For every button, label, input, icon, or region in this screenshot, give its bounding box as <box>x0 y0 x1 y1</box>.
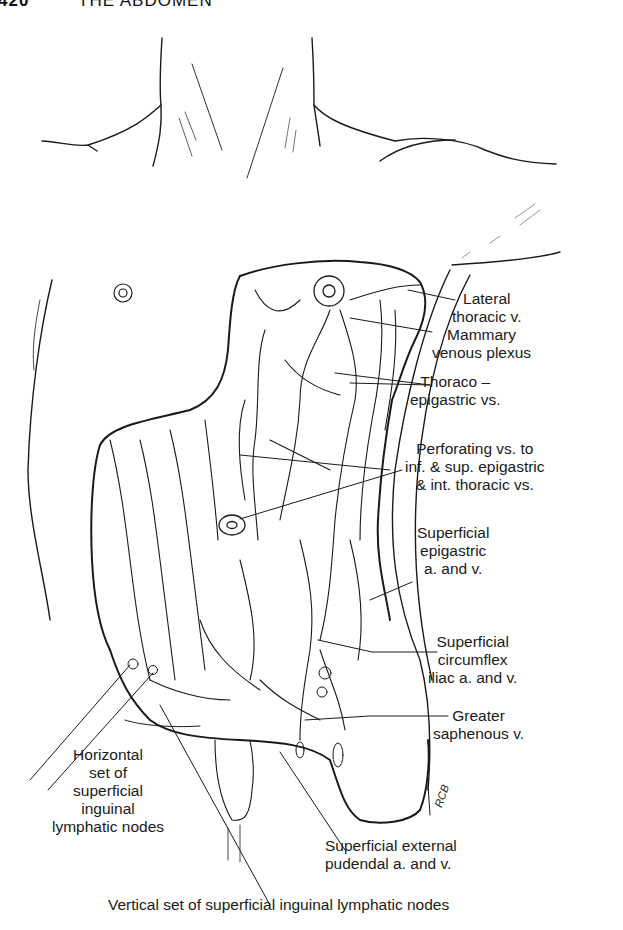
label-perforating-veins: Perforating vs. to inf. & sup. epigastri… <box>405 440 545 494</box>
clavicle-marks <box>462 204 540 258</box>
artist-signature <box>428 785 430 815</box>
label-superficial-circumflex-iliac: Superficial circumflex iliac a. and v. <box>428 633 517 687</box>
skin-flap-outline <box>91 261 428 823</box>
label-external-pudendal: Superficial external pudendal a. and v. <box>325 837 457 873</box>
superficial-veins <box>110 285 420 740</box>
label-horizontal-lymph-nodes: Horizontal set of superficial inguinal l… <box>52 746 164 836</box>
genitalia-outline <box>215 740 253 862</box>
label-mammary-venous-plexus: Mammary venous plexus <box>432 326 531 362</box>
neck-shoulders-outline <box>42 38 556 178</box>
label-lateral-thoracic-vein: Lateral thoracic v. <box>452 290 522 326</box>
label-greater-saphenous-vein: Greater saphenous v. <box>433 707 524 743</box>
left-nipple <box>114 284 132 302</box>
umbilicus <box>219 515 245 535</box>
label-vertical-lymph-nodes: Vertical set of superficial inguinal lym… <box>108 896 449 914</box>
flap-nipple <box>314 276 344 306</box>
label-superficial-epigastric: Superficial epigastric a. and v. <box>417 524 489 578</box>
label-thoraco-epigastric-veins: Thoraco – epigastric vs. <box>410 373 500 409</box>
